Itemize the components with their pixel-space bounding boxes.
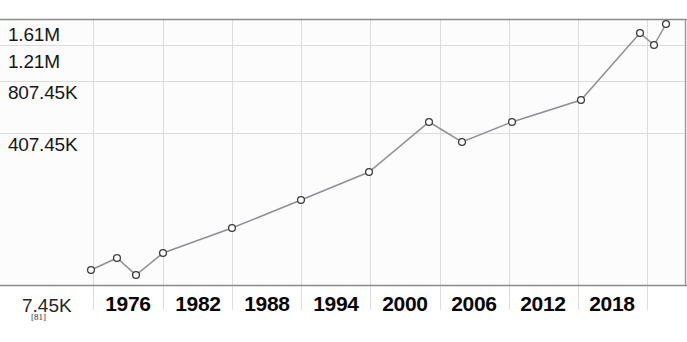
y-axis-tick-label: 7.45K <box>22 295 72 317</box>
data-point-marker[interactable] <box>663 21 670 28</box>
data-point-marker[interactable] <box>459 139 466 146</box>
gridlines-vertical <box>94 19 648 310</box>
data-point-marker[interactable] <box>637 30 644 37</box>
x-axis-tick-label: 1994 <box>303 292 369 316</box>
x-axis-tick-label: 2000 <box>372 292 438 316</box>
chart-container: 1.61M1.21M807.45K407.45K7.45K 1976198219… <box>0 0 687 342</box>
gridlines-horizontal <box>0 46 687 134</box>
y-axis-tick-label: 1.21M <box>8 51 60 73</box>
x-axis-tick-label: 2006 <box>441 292 507 316</box>
data-point-marker[interactable] <box>88 267 95 274</box>
chart-canvas <box>0 0 687 342</box>
data-point-marker[interactable] <box>160 250 167 257</box>
data-point-marker[interactable] <box>651 42 658 49</box>
y-axis-tick-label: 407.45K <box>8 134 77 156</box>
y-axis-tick-label: 1.61M <box>8 24 60 46</box>
citation-reference[interactable]: [81] <box>31 312 46 322</box>
data-point-marker[interactable] <box>114 255 121 262</box>
data-point-marker[interactable] <box>426 119 433 126</box>
x-axis-tick-label: 1982 <box>165 292 231 316</box>
data-point-marker[interactable] <box>133 272 140 279</box>
y-axis-tick-label: 807.45K <box>8 82 77 104</box>
data-point-marker[interactable] <box>366 169 373 176</box>
data-point-marker[interactable] <box>229 225 236 232</box>
data-point-marker[interactable] <box>509 119 516 126</box>
x-axis-tick-label: 2012 <box>510 292 576 316</box>
series-markers <box>88 21 670 279</box>
data-point-marker[interactable] <box>298 197 305 204</box>
x-axis-tick-label: 2018 <box>579 292 645 316</box>
data-point-marker[interactable] <box>578 97 585 104</box>
x-axis-tick-label: 1976 <box>95 292 161 316</box>
series-line <box>91 24 666 275</box>
x-axis-tick-label: 1988 <box>234 292 300 316</box>
